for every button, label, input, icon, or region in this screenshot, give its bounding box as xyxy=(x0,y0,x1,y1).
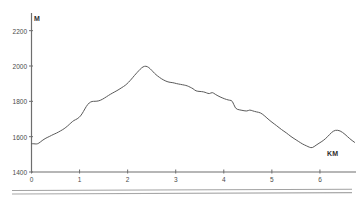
x-tick-label: 6 xyxy=(313,176,327,183)
x-tick-label: 0 xyxy=(25,176,39,183)
y-tick-label: 1400 xyxy=(5,169,27,176)
y-tick-label: 1600 xyxy=(5,133,27,140)
y-tick-label: 1800 xyxy=(5,98,27,105)
y-axis-title: M xyxy=(34,15,40,22)
x-axis-title: KM xyxy=(327,150,338,157)
x-tick-label: 1 xyxy=(73,176,87,183)
x-tick-label: 2 xyxy=(121,176,135,183)
x-tick-label: 5 xyxy=(265,176,279,183)
axis-lines xyxy=(32,13,357,172)
route-bar-line-bottom xyxy=(12,193,352,194)
x-tick-label: 3 xyxy=(169,176,183,183)
route-bar-lines xyxy=(12,189,352,194)
x-tick-label: 4 xyxy=(217,176,231,183)
elevation-line xyxy=(32,66,355,147)
y-tick-label: 2000 xyxy=(5,63,27,70)
route-bar-line-top xyxy=(12,189,352,190)
elevation-profile-chart: M KM 14001600180020002200 0123456 xyxy=(0,0,361,208)
y-tick-label: 2200 xyxy=(5,27,27,34)
